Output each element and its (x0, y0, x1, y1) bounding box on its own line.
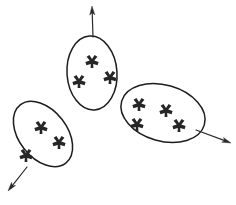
arrow-shaft-top-cluster (92, 12, 93, 37)
data-point-mark-icon (103, 71, 116, 84)
arrow-shaft-right-cluster (196, 130, 225, 141)
cluster-right-cluster (114, 74, 231, 152)
arrow-shaft-left-cluster (12, 167, 27, 186)
data-point-mark-icon (172, 119, 185, 132)
diagram-canvas (0, 0, 236, 205)
cluster-ellipse-left-cluster (1, 90, 84, 178)
data-point-mark-icon (34, 121, 47, 134)
cluster-diagram (0, 0, 236, 205)
motion-arrow-top-cluster (90, 6, 95, 37)
data-point-mark-icon (85, 55, 98, 68)
data-point-mark-icon (130, 118, 143, 131)
data-point-group-top-cluster (72, 55, 116, 88)
data-point-mark-icon (159, 104, 172, 117)
motion-arrow-left-cluster (8, 167, 27, 191)
data-point-group-right-cluster (130, 98, 185, 132)
motion-arrow-right-cluster (196, 130, 231, 143)
data-point-mark-icon (72, 75, 85, 88)
data-point-group-left-cluster (19, 121, 65, 162)
cluster-left-cluster (1, 90, 84, 191)
data-point-mark-icon (52, 136, 65, 149)
data-point-mark-icon (132, 98, 145, 111)
cluster-top-cluster (64, 6, 119, 112)
cluster-ellipse-top-cluster (64, 34, 119, 111)
